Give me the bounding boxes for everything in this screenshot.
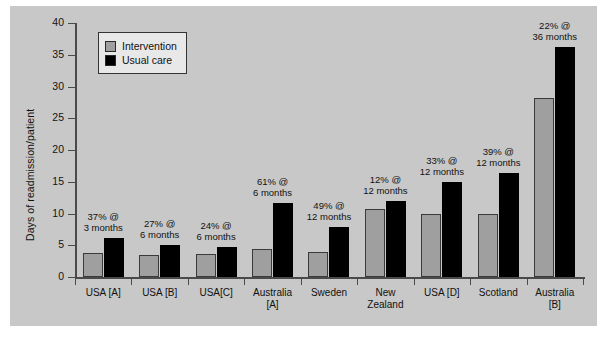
- x-axis-tick: [188, 279, 189, 285]
- x-axis-line: [75, 277, 585, 279]
- bar-intervention: [139, 255, 159, 277]
- y-axis-tick: 25: [68, 118, 75, 119]
- x-axis-tick: [583, 279, 584, 285]
- y-axis-tick-label: 40: [52, 16, 64, 29]
- bar-intervention: [478, 214, 498, 278]
- y-axis-tick: 15: [68, 182, 75, 183]
- bar-usual-care: [217, 247, 237, 277]
- y-axis-tick: 0: [68, 277, 75, 278]
- y-axis-tick: 35: [68, 55, 75, 56]
- y-axis-tick: 20: [68, 150, 75, 151]
- y-axis-title-text: Days of readmission/patient: [24, 109, 36, 241]
- y-axis-tick-label: 35: [52, 48, 64, 61]
- bar-usual-care: [499, 173, 519, 277]
- y-axis-tick-label: 25: [52, 111, 64, 124]
- y-axis-tick: 30: [68, 87, 75, 88]
- bar-annotation: 49% @ 12 months: [294, 200, 364, 222]
- x-axis-tick: [301, 279, 302, 285]
- bar-group: [244, 23, 300, 277]
- x-axis-tick: [414, 279, 415, 285]
- x-axis-tick: [244, 279, 245, 285]
- y-axis-tick-label: 10: [52, 207, 64, 220]
- bar-intervention: [308, 252, 328, 277]
- bar-intervention: [534, 98, 554, 277]
- x-axis-tick: [131, 279, 132, 285]
- bar-group: [75, 23, 131, 277]
- y-axis-tick: 5: [68, 245, 75, 246]
- bar-intervention: [196, 254, 216, 277]
- bar-intervention: [365, 209, 385, 277]
- bar-intervention: [421, 214, 441, 278]
- x-axis-tick: [527, 279, 528, 285]
- x-axis-tick: [470, 279, 471, 285]
- x-axis-tick: [75, 279, 76, 285]
- bar-usual-care: [273, 203, 293, 277]
- y-axis-tick-label: 15: [52, 175, 64, 188]
- y-axis-tick-label: 30: [52, 80, 64, 93]
- bar-usual-care: [160, 245, 180, 277]
- y-axis-tick: 40: [68, 23, 75, 24]
- bar-intervention: [83, 253, 103, 277]
- x-axis-tick: [357, 279, 358, 285]
- y-axis-tick-label: 5: [58, 238, 64, 251]
- bar-usual-care: [386, 201, 406, 277]
- bar-group: [357, 23, 413, 277]
- bar-usual-care: [329, 227, 349, 277]
- chart-figure: Days of readmission/patient 051015202530…: [10, 6, 597, 326]
- bar-annotation: 61% @ 6 months: [238, 176, 308, 198]
- bar-intervention: [252, 249, 272, 277]
- bar-group: [301, 23, 357, 277]
- y-axis-tick-label: 0: [58, 270, 64, 283]
- bar-group: [527, 23, 583, 277]
- bar-annotation: 39% @ 12 months: [463, 146, 533, 168]
- bar-group: [414, 23, 470, 277]
- bar-annotation: 22% @ 36 months: [520, 20, 590, 42]
- bar-usual-care: [555, 47, 575, 277]
- bar-annotation: 24% @ 6 months: [181, 220, 251, 242]
- x-axis-label: Australia [B]: [518, 287, 592, 310]
- y-axis-tick-label: 20: [52, 143, 64, 156]
- bar-usual-care: [442, 182, 462, 277]
- bar-usual-care: [104, 238, 124, 277]
